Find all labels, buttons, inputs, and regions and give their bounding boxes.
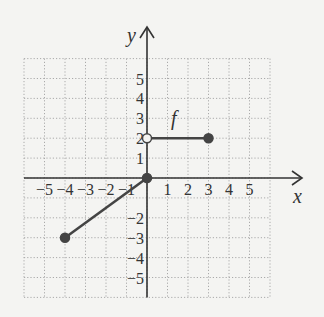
x-tick-label: −4	[56, 181, 73, 198]
x-tick-label: 3	[205, 181, 213, 198]
function-graph: −5−4−3−2−11234554321−2−3−4−5 x y f	[0, 0, 324, 317]
y-tick-label: −2	[127, 210, 144, 227]
closed-endpoint	[61, 233, 70, 242]
y-tick-label: 4	[136, 90, 144, 107]
y-tick-label: −5	[127, 270, 144, 287]
y-axis-label: y	[125, 24, 136, 47]
y-tick-label: 1	[136, 150, 144, 167]
x-tick-label: 5	[246, 181, 254, 198]
y-tick-label: −4	[127, 250, 144, 267]
x-tick-label: 1	[164, 181, 172, 198]
y-tick-label: −3	[127, 230, 144, 247]
x-tick-label: −3	[77, 181, 94, 198]
closed-endpoint	[143, 174, 152, 183]
x-tick-label: 2	[184, 181, 192, 198]
x-tick-label: −2	[97, 181, 114, 198]
y-tick-label: 5	[136, 71, 144, 88]
x-axis-label: x	[292, 185, 302, 207]
open-endpoint	[143, 134, 152, 143]
x-tick-label: −5	[36, 181, 53, 198]
x-tick-label: 4	[225, 181, 233, 198]
closed-endpoint	[204, 134, 213, 143]
axes	[24, 27, 302, 297]
y-tick-label: 3	[136, 110, 144, 127]
